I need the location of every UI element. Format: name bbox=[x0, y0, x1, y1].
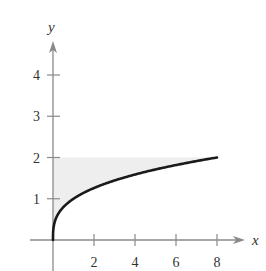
x-tick-label: 2 bbox=[91, 255, 98, 270]
x-axis bbox=[30, 236, 245, 244]
y-tick-label: 4 bbox=[33, 68, 40, 83]
chart: 2468 1234 x y bbox=[0, 0, 266, 271]
y-tick-label: 1 bbox=[33, 192, 40, 207]
x-tick-label: 8 bbox=[214, 255, 221, 270]
x-tick-label: 6 bbox=[173, 255, 180, 270]
x-tick-label: 4 bbox=[132, 255, 139, 270]
x-axis-label: x bbox=[251, 232, 259, 248]
y-tick-label: 3 bbox=[33, 109, 40, 124]
y-axis-label: y bbox=[46, 19, 55, 35]
shaded-region bbox=[53, 158, 217, 241]
y-tick-label: 2 bbox=[33, 151, 40, 166]
